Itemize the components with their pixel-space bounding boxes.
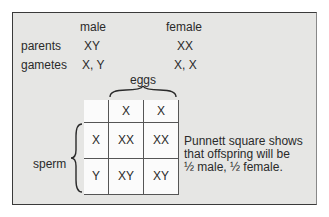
caption-line-1: Punnett square shows <box>184 134 303 148</box>
parents-female: XX <box>177 39 193 53</box>
caption-line-2: that offspring will be <box>184 147 290 161</box>
caption-line-3: ½ male, ½ female. <box>184 160 283 174</box>
punnett-square: X X X XX XX Y XY XY <box>84 100 179 195</box>
sperm-brace-icon <box>70 122 84 194</box>
offspring-cell: XX <box>109 122 144 158</box>
sperm-label: sperm <box>33 157 66 171</box>
eggs-brace-icon <box>108 86 178 98</box>
egg-header-cell: X <box>109 100 144 122</box>
parents-label: parents <box>21 39 61 53</box>
offspring-cell: XX <box>144 122 179 158</box>
female-header: female <box>166 20 202 34</box>
eggs-label: eggs <box>130 73 156 87</box>
gametes-male: X, Y <box>82 58 104 72</box>
offspring-cell: XY <box>144 158 179 194</box>
gametes-label: gametes <box>21 58 67 72</box>
gametes-female: X, X <box>174 58 197 72</box>
male-header: male <box>80 20 106 34</box>
offspring-cell: XY <box>109 158 144 194</box>
sperm-header-cell: Y <box>84 158 109 194</box>
sperm-header-cell: X <box>84 122 109 158</box>
egg-header-cell: X <box>144 100 179 122</box>
corner-cell <box>84 100 109 122</box>
parents-male: XY <box>84 39 100 53</box>
